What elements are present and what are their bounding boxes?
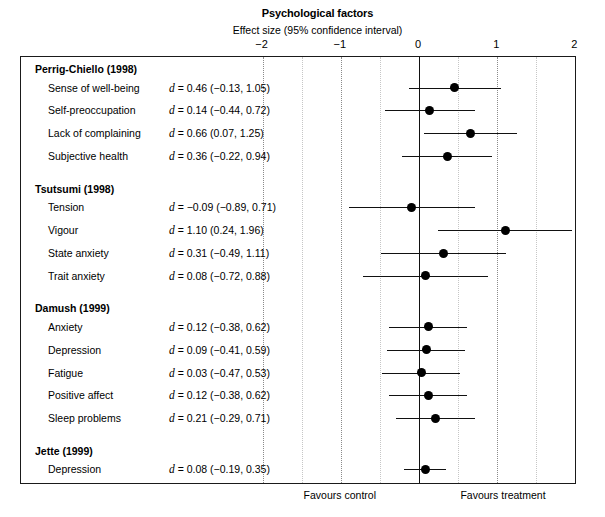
point-estimate-marker [466, 129, 475, 138]
point-estimate-marker [422, 345, 431, 354]
effect-size-value: d = 0.03 (−0.47, 0.53) [169, 364, 270, 382]
effect-size-value: d = 0.66 (0.07, 1.25) [169, 124, 264, 142]
favours-control-label: Favours control [270, 489, 410, 501]
x-axis-tick-label: −2 [242, 38, 282, 50]
d-symbol: d [169, 150, 175, 162]
outcome-label: Lack of complaining [48, 124, 141, 142]
outcome-label: Tension [48, 198, 84, 216]
outcome-label: State anxiety [48, 244, 109, 262]
forest-plot-figure: Psychological factors Effect size (95% c… [0, 0, 605, 517]
effect-size-value: d = 0.14 (−0.44, 0.72) [169, 101, 270, 119]
point-estimate-marker [421, 465, 430, 474]
outcome-label: Sleep problems [48, 409, 121, 427]
effect-size-value: d = −0.09 (−0.89, 0.71) [169, 198, 276, 216]
outcome-label: Anxiety [48, 318, 82, 336]
forest-row: Trait anxietyd = 0.08 (−0.72, 0.88) [21, 267, 575, 285]
outcome-label: Fatigue [48, 364, 83, 382]
forest-row: Tensiond = −0.09 (−0.89, 0.71) [21, 198, 575, 216]
effect-size-value: d = 0.46 (−0.13, 1.05) [169, 79, 270, 97]
x-axis-tick-label: 0 [398, 38, 438, 50]
effect-size-value: d = 0.12 (−0.38, 0.62) [169, 318, 270, 336]
point-estimate-marker [431, 414, 440, 423]
chart-subtitle-text: Effect size (95% confidence interval) [233, 24, 403, 36]
effect-size-value: d = 0.08 (−0.72, 0.88) [169, 267, 270, 285]
d-symbol: d [169, 104, 175, 116]
plot-area: Perrig-Chiello (1998)Sense of well-being… [21, 57, 575, 483]
favours-treatment-label: Favours treatment [433, 489, 573, 501]
chart-subtitle: Effect size (95% confidence interval) [0, 24, 605, 36]
page-title: Psychological factors [0, 7, 605, 19]
x-axis-tick-label: 2 [554, 38, 594, 50]
d-symbol: d [169, 270, 175, 282]
d-symbol: d [169, 82, 175, 94]
study-group-heading: Tsutsumi (1998) [35, 183, 114, 195]
forest-row: Sense of well-beingd = 0.46 (−0.13, 1.05… [21, 79, 575, 97]
effect-size-value: d = 0.31 (−0.49, 1.11) [169, 244, 269, 262]
forest-row: Fatigued = 0.03 (−0.47, 0.53) [21, 364, 575, 382]
x-axis-tick-label: −1 [320, 38, 360, 50]
point-estimate-marker [407, 203, 416, 212]
point-estimate-marker [424, 391, 433, 400]
forest-row: Anxietyd = 0.12 (−0.38, 0.62) [21, 318, 575, 336]
d-symbol: d [169, 201, 175, 213]
forest-row: Self-preoccupationd = 0.14 (−0.44, 0.72) [21, 101, 575, 119]
point-estimate-marker [421, 271, 430, 280]
point-estimate-marker [439, 249, 448, 258]
d-symbol: d [169, 127, 175, 139]
outcome-label: Positive affect [48, 386, 113, 404]
outcome-label: Trait anxiety [48, 267, 105, 285]
effect-size-value: d = 0.12 (−0.38, 0.62) [169, 386, 270, 404]
effect-size-value: d = 0.21 (−0.29, 0.71) [169, 409, 270, 427]
forest-row: Subjective healthd = 0.36 (−0.22, 0.94) [21, 147, 575, 165]
forest-row: Positive affectd = 0.12 (−0.38, 0.62) [21, 386, 575, 404]
effect-size-value: d = 1.10 (0.24, 1.96) [169, 221, 264, 239]
outcome-label: Subjective health [48, 147, 128, 165]
d-symbol: d [169, 367, 175, 379]
x-axis-tick-label: 1 [476, 38, 516, 50]
d-symbol: d [169, 321, 175, 333]
effect-size-value: d = 0.09 (−0.41, 0.59) [169, 341, 270, 359]
study-group-heading: Jette (1999) [35, 445, 93, 457]
forest-row: Depressiond = 0.09 (−0.41, 0.59) [21, 341, 575, 359]
forest-row: Depressiond = 0.08 (−0.19, 0.35) [21, 460, 575, 478]
effect-size-value: d = 0.36 (−0.22, 0.94) [169, 147, 270, 165]
page-title-text: Psychological factors [262, 7, 374, 19]
forest-row: Sleep problemsd = 0.21 (−0.29, 0.71) [21, 409, 575, 427]
outcome-label: Vigour [48, 221, 78, 239]
d-symbol: d [169, 389, 175, 401]
point-estimate-marker [501, 226, 510, 235]
effect-size-value: d = 0.08 (−0.19, 0.35) [169, 460, 270, 478]
point-estimate-marker [417, 368, 426, 377]
d-symbol: d [169, 412, 175, 424]
d-symbol: d [169, 344, 175, 356]
study-group-heading: Perrig-Chiello (1998) [35, 63, 137, 75]
point-estimate-marker [443, 152, 452, 161]
d-symbol: d [169, 463, 175, 475]
plot-frame: Perrig-Chiello (1998)Sense of well-being… [20, 56, 576, 484]
d-symbol: d [169, 224, 175, 236]
d-symbol: d [169, 247, 175, 259]
outcome-label: Sense of well-being [48, 79, 140, 97]
x-axis-tick-labels: −2−1012 [0, 38, 605, 54]
point-estimate-marker [425, 106, 434, 115]
outcome-label: Self-preoccupation [48, 101, 136, 119]
study-group-heading: Damush (1999) [35, 302, 110, 314]
forest-row: State anxietyd = 0.31 (−0.49, 1.11) [21, 244, 575, 262]
outcome-label: Depression [48, 341, 101, 359]
forest-row: Lack of complainingd = 0.66 (0.07, 1.25) [21, 124, 575, 142]
point-estimate-marker [424, 322, 433, 331]
forest-row: Vigourd = 1.10 (0.24, 1.96) [21, 221, 575, 239]
outcome-label: Depression [48, 460, 101, 478]
point-estimate-marker [450, 83, 459, 92]
